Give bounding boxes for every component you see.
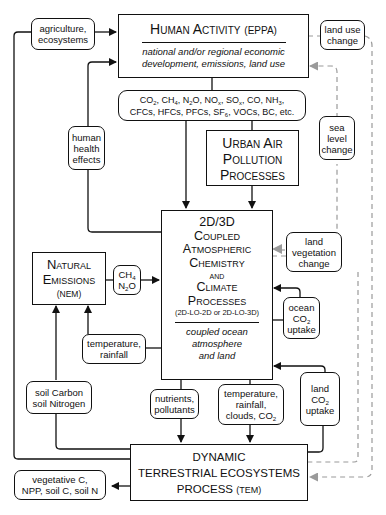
label-human-health-effects: human health effects xyxy=(68,126,105,170)
coupled-line: Coupled xyxy=(162,230,272,244)
arrowhead-land-vegetation xyxy=(272,244,282,254)
label-line: change xyxy=(298,258,329,269)
emissions-species-list: CO2, CH4, N2O, NOx, SOx, CO, NH3, CFCs, … xyxy=(118,90,306,121)
label-line: ocean xyxy=(289,302,315,313)
model-variants: (2D-LO-2D or 2D-LO-3D) xyxy=(162,308,272,318)
urban-air-line-2: Pollution xyxy=(207,151,298,167)
human-activity-desc-2: development, emissions, land use xyxy=(119,58,308,70)
coupled-line: 2D/3D xyxy=(162,216,272,230)
label-line: vegetation xyxy=(292,247,336,258)
label-line: uptake xyxy=(306,405,335,416)
label-line: temperature, xyxy=(87,338,141,349)
label-line: change xyxy=(321,144,352,155)
human-activity-title: Human Activity xyxy=(150,21,240,37)
human-activity-abbrev: (EPPA) xyxy=(244,25,277,36)
coupled-line: Chemistry xyxy=(162,257,272,271)
label-ch4-n2o: CH4 N2O xyxy=(113,265,141,295)
label-temperature-rainfall: temperature, rainfall xyxy=(82,334,146,364)
label-nutrients-pollutants: nutrients, pollutants xyxy=(150,389,199,419)
label-line: sea xyxy=(329,122,344,133)
label-line: agriculture, xyxy=(40,23,87,34)
label-line: rainfall, xyxy=(236,399,267,410)
label-line: rainfall xyxy=(100,349,128,360)
nem-line: Natural xyxy=(33,257,105,272)
label-sea-level-change: sea level change xyxy=(319,116,355,160)
tem-line: TERRESTRIAL ECOSYSTEMS xyxy=(131,465,307,481)
urban-air-line-3: Processes xyxy=(207,167,298,183)
label-line: health xyxy=(74,143,100,154)
coupled-divider xyxy=(175,322,259,323)
label-line: vegetative C, xyxy=(32,474,87,485)
label-land-use-change: land use change xyxy=(320,20,365,50)
emissions-line-1: CO2, CH4, N2O, NOx, SOx, CO, NH3, xyxy=(140,94,284,106)
terrestrial-ecosystems-box: DYNAMIC TERRESTRIAL ECOSYSTEMS PROCESS (… xyxy=(130,444,308,501)
coupled-atmospheric-chemistry-climate-box: 2D/3D Coupled Atmospheric Chemistry and … xyxy=(161,210,273,380)
nem-line: Emissions xyxy=(33,272,105,287)
label-temperature-rainfall-clouds-co2: temperature, rainfall, clouds, CO2 xyxy=(218,384,284,425)
label-line: soil Carbon xyxy=(35,387,83,398)
label-line: ecosystems xyxy=(38,34,88,45)
label-line: NPP, soil C, soil N xyxy=(22,485,98,496)
label-line: effects xyxy=(73,154,101,165)
coupled-line: Processes xyxy=(162,295,272,309)
emissions-line-2: CFCs, HFCs, PFCs, SF6, VOCs, BC, etc. xyxy=(130,106,294,118)
label-line: land use xyxy=(325,24,361,35)
coupled-sub-line: coupled ocean xyxy=(162,326,272,338)
urban-air-line-1: Urban Air xyxy=(207,135,298,151)
coupled-line: Atmospheric xyxy=(162,243,272,257)
label-line: CO2 xyxy=(311,394,329,405)
label-line: CO2 xyxy=(293,313,311,324)
tem-line: DYNAMIC xyxy=(131,449,307,465)
label-line: human xyxy=(72,132,101,143)
label-line: N2O xyxy=(118,280,136,291)
label-land-vegetation-change: land vegetation change xyxy=(286,232,342,272)
label-line: pollutants xyxy=(154,404,195,415)
label-line: change xyxy=(327,35,358,46)
label-soil-carbon-nitrogen: soil Carbon soil Nitrogen xyxy=(26,381,92,414)
title-divider xyxy=(142,42,286,43)
label-ocean-co2-uptake: ocean CO2 uptake xyxy=(283,297,320,339)
label-line: land xyxy=(311,383,329,394)
urban-air-pollution-box: Urban Air Pollution Processes xyxy=(206,130,299,186)
label-line: clouds, CO2 xyxy=(226,410,276,421)
tem-line: PROCESS (TEM) xyxy=(131,481,307,498)
label-line: land xyxy=(305,236,323,247)
human-activity-box: Human Activity (EPPA) national and/or re… xyxy=(118,14,309,78)
label-tem-outputs: vegetative C, NPP, soil C, soil N xyxy=(14,470,106,500)
label-agriculture-ecosystems: agriculture, ecosystems xyxy=(31,18,95,50)
label-line: nutrients, xyxy=(155,393,194,404)
label-line: temperature, xyxy=(224,388,278,399)
label-land-co2-uptake: land CO2 uptake xyxy=(300,372,340,426)
label-line: soil Nitrogen xyxy=(33,398,86,409)
label-line: uptake xyxy=(287,324,316,335)
label-line: level xyxy=(327,133,347,144)
coupled-line: Climate xyxy=(162,281,272,295)
nem-abbrev: (NEM) xyxy=(33,287,105,301)
natural-emissions-box: Natural Emissions (NEM) xyxy=(32,252,106,305)
human-activity-desc-1: national and/or regional economic xyxy=(119,46,308,58)
coupled-sub-line: and land xyxy=(162,350,272,362)
label-line: CH4 xyxy=(118,269,135,280)
coupled-sub-line: atmosphere xyxy=(162,338,272,350)
